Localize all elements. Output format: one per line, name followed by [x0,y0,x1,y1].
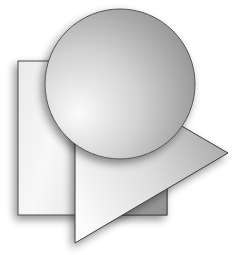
circle-shape [45,9,195,159]
shapes-illustration [0,0,240,255]
shapes-artwork [0,0,240,255]
